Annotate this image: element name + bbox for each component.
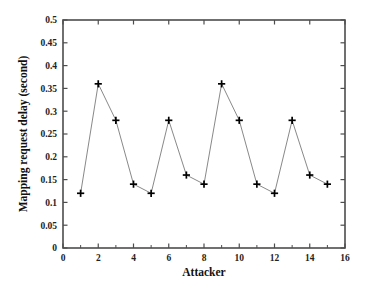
y-tick-label: 0 (52, 243, 57, 253)
chart-figure: Mapping request delay (second) Attacker … (0, 0, 365, 294)
x-tick-label: 8 (202, 253, 207, 263)
x-tick-label: 16 (340, 253, 350, 263)
x-tick-label: 12 (270, 253, 280, 263)
y-tick-label: 0.25 (40, 129, 57, 139)
x-axis-title: Attacker (182, 266, 225, 278)
x-tick-label: 0 (61, 253, 66, 263)
y-tick-label: 0.35 (40, 84, 57, 94)
y-tick-label: 0.5 (45, 15, 57, 25)
x-tick-label: 4 (131, 253, 136, 263)
y-tick-label: 0.15 (40, 175, 57, 185)
y-tick-label: 0.4 (45, 61, 57, 71)
x-tick-label: 6 (166, 253, 171, 263)
y-tick-label: 0.45 (40, 38, 57, 48)
y-tick-label: 0.3 (45, 107, 57, 117)
y-axis-title: Mapping request delay (second) (17, 56, 30, 213)
y-tick-label: 0.2 (45, 152, 57, 162)
x-tick-label: 10 (235, 253, 245, 263)
y-tick-label: 0.05 (40, 221, 57, 231)
x-tick-label: 2 (96, 253, 101, 263)
y-tick-label: 0.1 (45, 198, 57, 208)
chart-canvas: Mapping request delay (second) Attacker … (0, 0, 365, 294)
x-tick-label: 14 (305, 253, 315, 263)
